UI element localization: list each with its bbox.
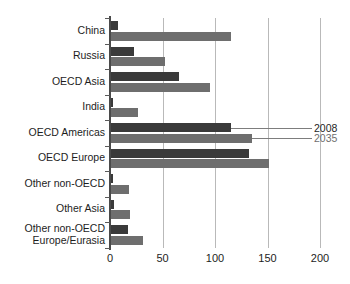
category-label-other-non-oecd-europe-eurasia: Other non-OECDEurope/Eurasia bbox=[0, 223, 105, 246]
bar-2008-oecd-americas bbox=[110, 123, 231, 132]
y-tick-9 bbox=[105, 248, 110, 249]
category-label-india: India bbox=[0, 101, 105, 113]
category-label-line: Europe/Eurasia bbox=[0, 235, 105, 247]
category-label-oecd-asia: OECD Asia bbox=[0, 76, 105, 88]
x-tick-label-50: 50 bbox=[156, 252, 168, 264]
bar-2035-oecd-americas bbox=[110, 134, 252, 143]
y-tick-1 bbox=[105, 44, 110, 45]
y-tick-7 bbox=[105, 197, 110, 198]
category-label-line: India bbox=[0, 101, 105, 113]
category-label-line: Other non-OECD bbox=[0, 178, 105, 190]
y-tick-6 bbox=[105, 171, 110, 172]
callout-leader-line-2008 bbox=[231, 128, 312, 129]
bar-2008-other-non-oecd-europe-eurasia bbox=[110, 225, 128, 234]
category-label-line: OECD Asia bbox=[0, 76, 105, 88]
bar-2035-other-non-oecd-europe-eurasia bbox=[110, 236, 143, 245]
bar-2008-russia bbox=[110, 47, 134, 56]
gridline-150 bbox=[268, 18, 269, 248]
category-label-oecd-americas: OECD Americas bbox=[0, 127, 105, 139]
bar-2035-china bbox=[110, 32, 231, 41]
bar-2035-india bbox=[110, 108, 138, 117]
bar-2008-oecd-asia bbox=[110, 72, 179, 81]
y-tick-2 bbox=[105, 69, 110, 70]
category-label-line: OECD Europe bbox=[0, 152, 105, 164]
bar-2035-russia bbox=[110, 57, 165, 66]
x-tick-label-150: 150 bbox=[258, 252, 276, 264]
bar-2035-oecd-europe bbox=[110, 159, 269, 168]
category-label-line: Russia bbox=[0, 50, 105, 62]
x-tick-label-200: 200 bbox=[311, 252, 329, 264]
y-tick-3 bbox=[105, 95, 110, 96]
x-tick-label-100: 100 bbox=[206, 252, 224, 264]
category-label-other-asia: Other Asia bbox=[0, 203, 105, 215]
chart-container: ChinaRussiaOECD AsiaIndiaOECD AmericasOE… bbox=[0, 0, 350, 284]
category-label-line: China bbox=[0, 25, 105, 37]
category-label-other-non-oecd: Other non-OECD bbox=[0, 178, 105, 190]
bar-2008-china bbox=[110, 21, 118, 30]
y-tick-5 bbox=[105, 146, 110, 147]
bar-2008-oecd-europe bbox=[110, 149, 249, 158]
x-tick-label-0: 0 bbox=[107, 252, 113, 264]
callout-leader-line-2035 bbox=[252, 138, 312, 139]
y-axis-line bbox=[109, 16, 111, 250]
bar-2035-oecd-asia bbox=[110, 83, 210, 92]
category-label-oecd-europe: OECD Europe bbox=[0, 152, 105, 164]
y-tick-4 bbox=[105, 120, 110, 121]
bar-2035-other-non-oecd bbox=[110, 185, 129, 194]
category-label-china: China bbox=[0, 25, 105, 37]
category-label-russia: Russia bbox=[0, 50, 105, 62]
y-tick-0 bbox=[105, 18, 110, 19]
category-label-line: OECD Americas bbox=[0, 127, 105, 139]
plot-area bbox=[110, 18, 320, 248]
category-label-line: Other Asia bbox=[0, 203, 105, 215]
y-tick-8 bbox=[105, 222, 110, 223]
legend-label-2035: 2035 bbox=[314, 132, 337, 144]
bar-2035-other-asia bbox=[110, 210, 130, 219]
category-label-line: Other non-OECD bbox=[0, 223, 105, 235]
